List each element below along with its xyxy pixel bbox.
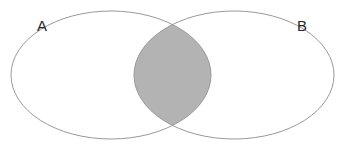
venn-diagram-figure: A B: [0, 0, 346, 148]
venn-diagram-canvas: A B: [0, 0, 346, 148]
set-b-label: B: [297, 17, 307, 34]
set-a-label: A: [37, 17, 47, 34]
